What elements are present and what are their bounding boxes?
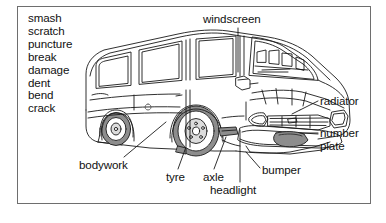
callout-label-headlight: headlight [210,184,256,197]
callout-label-axle: axle [203,171,224,184]
callout-label-number-plate-line2: plate [320,140,359,153]
diagram-root: smash scratch puncture break damage dent… [0,0,386,223]
callout-label-number-plate: number plate [320,127,359,152]
callout-label-number-plate-line1: number [320,127,359,140]
callout-label-bumper: bumper [262,164,301,177]
list-item: crack [28,102,90,115]
callout-label-radiator: radiator [320,95,359,108]
damage-verbs-list: smash scratch puncture break damage dent… [28,12,90,115]
list-item: break [28,51,90,64]
callout-label-tyre: tyre [166,171,185,184]
leader-bumper [246,152,260,168]
list-item: puncture [28,38,90,51]
list-item: damage [28,64,90,77]
list-item: smash [28,12,90,25]
callout-label-bodywork: bodywork [79,159,128,172]
leader-radiator-2 [292,110,300,114]
callout-label-windscreen: windscreen [203,13,261,26]
list-item: scratch [28,25,90,38]
